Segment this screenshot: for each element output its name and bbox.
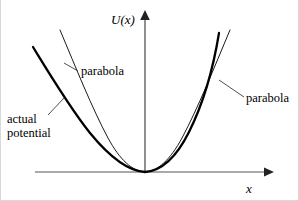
parabola-left-label: parabola [81, 64, 124, 78]
actual-potential-curve [33, 33, 219, 172]
parabola-right-label: parabola [246, 91, 289, 105]
figure-right-edge [298, 0, 299, 201]
actual-potential-label: actualpotential [7, 112, 51, 140]
actual-potential-label-line2: potential [7, 126, 51, 140]
x-axis-arrow-icon [264, 167, 274, 176]
y-axis-arrow-icon [140, 10, 150, 20]
x-axis-label: x [246, 182, 252, 197]
y-axis-label: U(x) [111, 13, 135, 28]
actual-potential-label-line1: actual [7, 112, 37, 126]
parabola-right-leader-line [219, 80, 244, 97]
potential-energy-figure: U(x) x parabola parabola actualpotential [0, 0, 299, 201]
figure-left-edge [0, 0, 1, 201]
figure-bottom-edge [0, 200, 299, 201]
